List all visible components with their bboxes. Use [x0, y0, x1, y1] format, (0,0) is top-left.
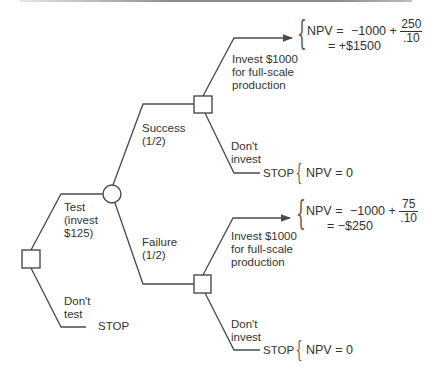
decision-tree-lines	[0, 0, 425, 384]
label-test-line3: $125)	[64, 227, 98, 240]
label-test-line2: (invest	[64, 214, 98, 227]
label-dont-test: Don't test	[64, 295, 91, 321]
npv-expr: −1000 +	[350, 204, 396, 218]
label-test-line1: Test	[64, 201, 98, 214]
npv-success-dont-invest: NPV = 0	[306, 166, 353, 181]
label-invest-failure-line1: Invest $1000	[231, 230, 297, 243]
label-invest-success: Invest $1000 for full-scale production	[232, 53, 298, 92]
label-failure: Failure (1/2)	[142, 236, 177, 262]
npv-fraction: 75 .10	[399, 198, 418, 225]
npv-lhs: NPV =	[307, 24, 343, 38]
fraction-denominator: .10	[400, 32, 422, 45]
label-dont-invest-failure-line2: invest	[231, 331, 261, 344]
stop-dont-test: STOP	[98, 320, 129, 333]
label-success-line1: Success	[142, 122, 185, 135]
label-success: Success (1/2)	[142, 122, 185, 148]
label-failure-line2: (1/2)	[142, 249, 177, 262]
label-dont-test-line1: Don't	[64, 295, 91, 308]
failure-decision-node	[194, 275, 211, 293]
npv-failure-dont-invest: NPV = 0	[306, 343, 353, 358]
fraction-numerator: 75	[399, 198, 418, 212]
label-invest-failure-line3: production	[231, 256, 297, 269]
label-invest-success-line2: for full-scale	[232, 66, 298, 79]
brace-failure-invest: {	[296, 192, 306, 232]
label-invest-failure-line2: for full-scale	[231, 243, 297, 256]
root-decision-node	[22, 250, 40, 268]
npv-failure-invest-result: = −$250	[327, 219, 373, 234]
label-failure-line1: Failure	[142, 236, 177, 249]
stop-dont-invest-failure: STOP	[263, 344, 294, 357]
label-success-line2: (1/2)	[142, 135, 185, 148]
npv-fraction: 250 .10	[400, 18, 422, 45]
label-invest-success-line3: production	[232, 79, 298, 92]
label-dont-invest-success-line2: invest	[231, 153, 261, 166]
label-dont-invest-success: Don't invest	[231, 140, 261, 166]
label-dont-invest-success-line1: Don't	[231, 140, 261, 153]
label-dont-invest-failure-line1: Don't	[231, 318, 261, 331]
npv-lhs: NPV =	[306, 204, 342, 218]
brace-success-dont-invest: {	[296, 160, 303, 185]
label-invest-success-line1: Invest $1000	[232, 53, 298, 66]
stop-dont-invest-success: STOP	[263, 167, 294, 180]
brace-success-invest: {	[297, 12, 307, 52]
label-test: Test (invest $125)	[64, 201, 98, 240]
label-invest-failure: Invest $1000 for full-scale production	[231, 230, 297, 269]
success-decision-node	[194, 96, 212, 113]
chance-node	[103, 185, 121, 203]
fraction-numerator: 250	[400, 18, 422, 32]
npv-success-invest-result: = +$1500	[328, 39, 381, 54]
brace-failure-dont-invest: {	[296, 337, 303, 362]
label-dont-test-line2: test	[64, 308, 91, 321]
fraction-denominator: .10	[399, 212, 418, 225]
label-dont-invest-failure: Don't invest	[231, 318, 261, 344]
npv-expr: −1000 +	[351, 24, 397, 38]
